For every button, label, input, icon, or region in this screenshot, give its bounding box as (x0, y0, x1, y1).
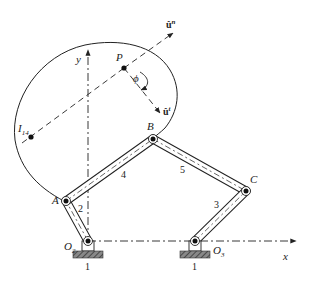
label-ground-left: 1 (85, 261, 90, 272)
label-B: B (147, 120, 154, 132)
label-O2: O2 (64, 240, 76, 255)
label-link-4: 4 (121, 169, 126, 180)
joint-O3 (191, 237, 200, 246)
label-tangent-vector: ût (163, 105, 172, 117)
label-I14: I14 (17, 122, 29, 137)
label-ground-right: 1 (192, 261, 197, 272)
label-link-5: 5 (180, 164, 185, 175)
joint-B (149, 135, 158, 144)
angle-phi-arc (140, 72, 148, 90)
tangent-vector-arrow (124, 68, 160, 113)
y-axis-label: y (75, 53, 81, 65)
x-axis-label: x (282, 250, 288, 262)
label-A: A (51, 194, 59, 206)
link-3 (195, 191, 246, 241)
link-4 (66, 139, 153, 201)
label-C: C (250, 173, 258, 185)
label-link-3: 3 (214, 199, 219, 210)
joint-O2 (84, 237, 93, 246)
label-normal-vector: ûn (166, 18, 176, 30)
normal-line (22, 68, 124, 143)
label-O3: O3 (213, 244, 225, 259)
link-2 (66, 201, 88, 241)
joint-C (242, 187, 251, 196)
label-P: P (115, 51, 123, 63)
point-P (121, 65, 126, 70)
label-link-2: 2 (78, 203, 83, 214)
joint-A (62, 197, 71, 206)
link-5 (153, 139, 246, 191)
point-I14 (28, 134, 33, 139)
label-phi: ϕ (133, 72, 139, 84)
normal-vector-arrow (124, 33, 173, 68)
linkage-diagram: y x P A B C O2 O3 I14 2 3 4 5 1 1 ϕ ûn û… (0, 0, 317, 287)
